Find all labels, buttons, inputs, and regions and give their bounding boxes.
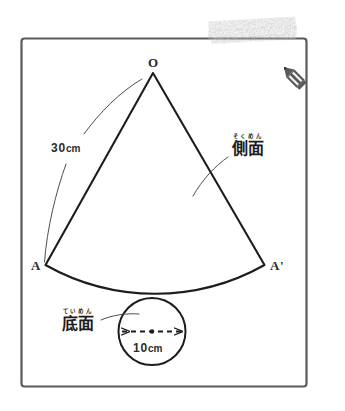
pencil-icon [280, 63, 307, 90]
base-face-text: 底面 [62, 316, 94, 332]
label-lateral-face: そくめん 側面 [232, 134, 264, 157]
label-slant-length: 30cm [51, 142, 80, 154]
center-dot [150, 329, 155, 334]
diameter-value: 10 [133, 341, 148, 355]
label-apex-o: O [148, 56, 159, 69]
cone-net-drawing [0, 0, 345, 411]
slant-length-unit: cm [66, 143, 80, 154]
leader-line-lateral-face [193, 157, 228, 196]
diameter-unit: cm [148, 343, 162, 354]
worksheet-figure-page: O A A' 30cm 10cm そくめん 側面 ていめん 底面 [0, 0, 345, 411]
lateral-face-text: 側面 [232, 141, 264, 157]
label-point-a: A [31, 259, 41, 272]
marker-highlight-stroke [207, 17, 297, 44]
label-base-diameter: 10cm [133, 342, 162, 354]
sector-outline [46, 73, 265, 294]
label-point-a-prime: A' [270, 259, 284, 272]
label-base-face: ていめん 底面 [62, 309, 94, 332]
slant-length-value: 30 [51, 141, 66, 155]
